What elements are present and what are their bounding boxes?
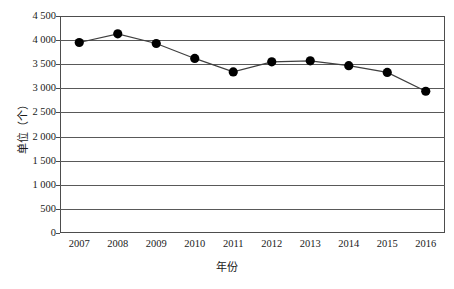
- y-axis-title: 单位（个）: [14, 56, 30, 196]
- data-point-marker: [113, 29, 122, 38]
- data-point-marker: [421, 87, 430, 96]
- data-point-marker: [190, 54, 199, 63]
- data-point-marker: [306, 56, 315, 65]
- data-point-marker: [344, 61, 353, 70]
- x-axis-title: 年份: [0, 258, 454, 274]
- data-series-layer: [0, 0, 454, 289]
- data-point-marker: [383, 68, 392, 77]
- data-point-marker: [267, 57, 276, 66]
- line-chart: 4 5004 0003 5003 0002 5002 0001 5001 000…: [0, 0, 454, 289]
- series-line: [79, 34, 426, 91]
- data-point-marker: [75, 38, 84, 47]
- data-point-marker: [229, 67, 238, 76]
- data-point-marker: [152, 39, 161, 48]
